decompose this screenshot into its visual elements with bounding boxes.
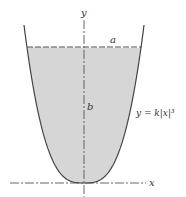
diagram: y x a b y = k|x|³ — [0, 0, 186, 197]
x-axis-label: x — [149, 177, 155, 188]
height-label-b: b — [87, 101, 93, 112]
curve-equation-label: y = k|x|³ — [135, 108, 175, 119]
y-axis-label: y — [80, 7, 87, 18]
width-label-a: a — [110, 34, 116, 45]
